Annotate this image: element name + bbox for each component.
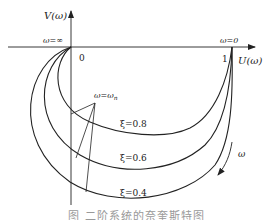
curve-label-0.6: ξ=0.6: [120, 153, 147, 163]
figure-caption: 图 二阶系统的奈奎斯特图: [0, 210, 273, 220]
omega-n-label: ω=ωn: [94, 91, 118, 101]
omega-inf-label: ω=∞: [43, 36, 63, 45]
y-axis-label: V(ω): [44, 10, 67, 21]
curve-label-0.8: ξ=0.8: [120, 119, 147, 129]
nyquist-diagram: V(ω) U(ω) 0 1 ω=∞ ω=0 ω=ωn ω ξ=0.8 ξ=0.6…: [0, 0, 273, 220]
unit-label: 1: [222, 54, 228, 64]
x-axis-label: U(ω): [238, 55, 262, 66]
direction-label: ω: [238, 149, 246, 159]
curve-zeta-0.6: [44, 47, 232, 169]
origin-label: 0: [79, 53, 85, 63]
curve-label-0.4: ξ=0.4: [120, 188, 147, 198]
omega-zero-label: ω=0: [220, 36, 238, 45]
omega-direction-arrow: [218, 142, 232, 175]
